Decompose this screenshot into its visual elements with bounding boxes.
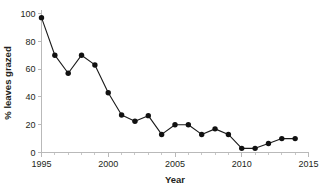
data-point <box>292 136 297 141</box>
x-tick-label: 2015 <box>298 159 318 169</box>
data-point <box>146 113 151 118</box>
data-point <box>106 90 111 95</box>
data-point <box>239 146 244 151</box>
y-axis-ticks <box>38 14 42 153</box>
data-series-markers <box>39 15 298 151</box>
data-point <box>132 119 137 124</box>
y-axis-title: % leaves grazed <box>2 46 13 120</box>
y-tick-label: 40 <box>25 92 35 102</box>
data-point <box>39 15 44 20</box>
data-point <box>66 71 71 76</box>
data-point <box>52 53 57 58</box>
x-tick-label: 2010 <box>232 159 252 169</box>
chart-container: 020406080100 19952000200520102015 % leav… <box>0 0 319 193</box>
data-point <box>279 136 284 141</box>
y-tick-label: 80 <box>25 37 35 47</box>
line-chart: 020406080100 19952000200520102015 % leav… <box>0 0 319 193</box>
data-point <box>252 146 257 151</box>
x-tick-label: 2005 <box>165 159 185 169</box>
x-tick-label: 2000 <box>98 159 118 169</box>
data-point <box>79 53 84 58</box>
x-axis-title: Year <box>165 174 185 185</box>
data-point <box>212 126 217 131</box>
y-tick-label: 20 <box>25 120 35 130</box>
data-point <box>119 112 124 117</box>
data-series-line <box>42 18 296 149</box>
data-point <box>172 122 177 127</box>
y-axis-tick-labels: 020406080100 <box>20 9 35 158</box>
y-tick-label: 100 <box>20 9 35 19</box>
data-point <box>199 132 204 137</box>
y-tick-label: 0 <box>30 148 35 158</box>
x-tick-label: 1995 <box>31 159 51 169</box>
x-axis-tick-labels: 19952000200520102015 <box>31 159 318 169</box>
y-tick-label: 60 <box>25 64 35 74</box>
data-point <box>92 62 97 67</box>
data-point <box>159 132 164 137</box>
data-point <box>226 132 231 137</box>
x-axis-ticks <box>42 153 309 157</box>
data-point <box>266 141 271 146</box>
data-point <box>186 122 191 127</box>
